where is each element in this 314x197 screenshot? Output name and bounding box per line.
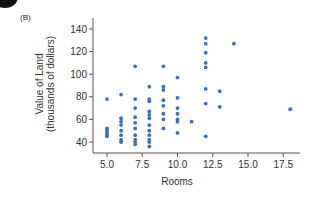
x-tick-label: 12.5 [203,159,223,170]
data-point [119,93,123,97]
data-point [162,98,166,102]
data-point [133,97,137,101]
data-point [176,112,180,116]
data-point [162,127,166,131]
data-point [133,127,137,131]
data-point [105,97,109,101]
data-point [133,121,137,125]
data-point [133,133,137,137]
data-points [105,36,292,148]
data-point [232,42,236,46]
x-tick-label: 7.5 [135,159,149,170]
data-point [133,115,137,119]
data-point [204,42,208,46]
data-point [162,85,166,89]
data-point [204,36,208,40]
data-point [147,113,151,117]
data-point [119,123,123,127]
data-point [162,88,166,92]
data-point [162,112,166,116]
scatter-plot: 4060801001201405.07.510.012.515.017.5 [0,0,314,197]
data-point [162,104,166,108]
data-point [147,133,151,137]
y-tick-label: 40 [76,137,88,148]
data-point [176,131,180,135]
data-point [147,123,151,127]
data-point [204,61,208,65]
y-tick-label: 140 [70,24,87,35]
data-point [288,107,292,111]
data-point [204,102,208,106]
data-point [204,51,208,55]
data-point [162,64,166,68]
x-tick-label: 10.0 [168,159,188,170]
x-tick-label: 17.5 [274,159,294,170]
data-point [147,110,151,114]
data-point [147,116,151,120]
data-point [133,64,137,68]
data-point [147,99,151,103]
y-tick-label: 60 [76,114,88,125]
x-axis-label: Rooms [161,176,193,187]
axes: 4060801001201405.07.510.012.515.017.5 [70,18,300,170]
data-point [119,129,123,133]
y-tick-label: 120 [70,46,87,57]
data-point [176,96,180,100]
x-tick-label: 15.0 [238,159,258,170]
data-point [119,120,123,124]
data-point [162,118,166,122]
data-point [204,66,208,70]
data-point [119,140,123,144]
data-point [133,106,137,110]
data-point [133,142,137,146]
data-point [190,120,194,124]
data-point [147,145,151,149]
data-point [218,89,222,93]
data-point [204,134,208,138]
data-point [176,120,180,124]
data-point [119,116,123,120]
data-point [218,105,222,109]
x-tick-label: 5.0 [100,159,114,170]
y-tick-label: 80 [76,91,88,102]
data-point [204,87,208,91]
data-point [147,85,151,89]
data-point [176,76,180,80]
data-point [147,140,151,144]
data-point [176,106,180,110]
data-point [147,129,151,133]
y-tick-label: 100 [70,69,87,80]
data-point [105,134,109,138]
data-point [119,133,123,137]
